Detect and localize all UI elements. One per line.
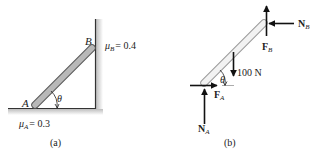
f-a-subscript: A [219,94,225,102]
mu-a-subscript: A [23,123,29,131]
diagram-canvas: B A θ μB= 0.4 μA= 0.3 (a) θ FB NB [0,0,321,156]
angle-theta-label: θ [57,93,62,104]
mu-a-label: μA= 0.3 [18,118,50,131]
n-b-subscript: B [305,23,310,31]
f-a-label: FA [214,89,225,102]
n-b-label: NB [298,18,310,31]
n-a-label: NA [198,123,210,136]
n-a-subscript: A [204,128,210,136]
ladder-rod-fill [35,48,92,105]
point-b-label: B [85,35,92,47]
figure-b: θ FB NB 100 N FA NA (b) [190,6,310,149]
mu-a-value: = 0.3 [29,118,50,129]
point-a-label: A [21,97,29,109]
f-b-subscript: B [268,46,273,54]
fbd-angle-theta-label: θ [220,74,225,85]
mu-b-subscript: B [110,45,115,53]
mu-b-value: = 0.4 [115,40,136,51]
weight-label: 100 N [237,67,262,78]
mu-b-label: μB= 0.4 [104,40,136,53]
caption-a: (a) [50,137,61,149]
wall-shading [96,19,103,111]
figure-a: B A θ μB= 0.4 μA= 0.3 (a) [8,19,136,149]
caption-b: (b) [224,137,236,149]
floor-shading [8,109,103,115]
f-b-label: FB [262,41,273,54]
